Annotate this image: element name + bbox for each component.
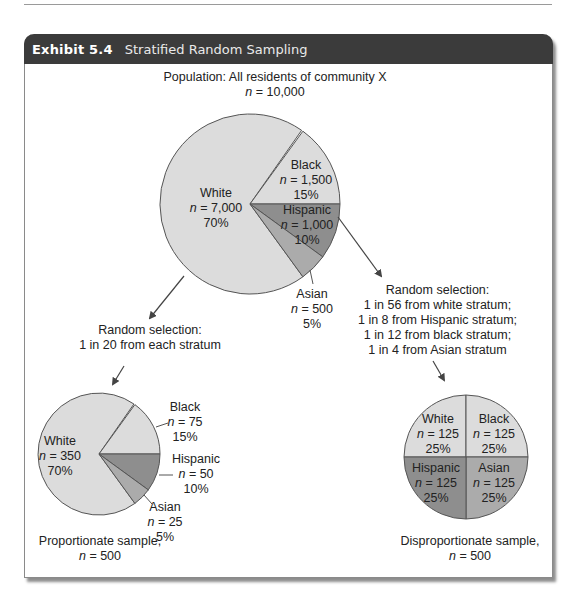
arrow-to-proportionate <box>150 276 184 318</box>
arrow-to-disproportionate-pie <box>433 361 444 380</box>
population-label-hispanic: Hispanic n = 1,000 10% <box>270 203 344 248</box>
arrow-to-proportionate-pie <box>113 366 124 384</box>
disproportionate-label-hispanic: Hispanic n = 125 25% <box>406 461 466 506</box>
population-label-asian: Asian n = 500 5% <box>282 287 342 332</box>
arrow-to-disproportionate <box>338 217 381 276</box>
proportionate-label-hispanic: Hispanic n = 50 10% <box>166 452 226 497</box>
proportionate-caption: Proportionate sample, n = 500 <box>30 534 170 564</box>
disproportionate-label-asian: Asian n = 125 25% <box>468 461 520 506</box>
disproportionate-label-black: Black n = 125 25% <box>468 412 520 457</box>
population-title: Population: All residents of community X… <box>150 70 400 100</box>
disproportionate-caption: Disproportionate sample, n = 500 <box>400 534 540 564</box>
proportionate-selection-text: Random selection: 1 in 20 from each stra… <box>60 323 240 353</box>
asian-leader-line <box>310 270 313 284</box>
proportionate-label-black: Black n = 75 15% <box>160 400 210 445</box>
population-label-white: White n = 7,000 70% <box>180 186 252 231</box>
disproportionate-label-white: White n = 125 25% <box>412 412 464 457</box>
population-label-black: Black n = 1,500 15% <box>270 158 342 203</box>
disproportionate-selection-text: Random selection: 1 in 56 from white str… <box>340 283 535 358</box>
proportionate-label-white: White n = 350 70% <box>34 434 86 479</box>
